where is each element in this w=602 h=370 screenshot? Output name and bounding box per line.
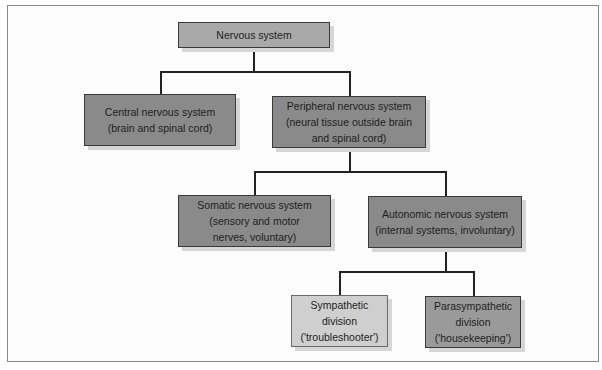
- node-label: Central nervous system (brain and spinal…: [105, 104, 215, 136]
- connector-root-stem: [253, 47, 255, 71]
- node-label: Somatic nervous system (sensory and moto…: [197, 197, 311, 245]
- node-label: Sympathetic division ('troubleshooter'): [300, 297, 378, 345]
- connector-to-somatic: [254, 171, 256, 195]
- node-nervous-system: Nervous system: [178, 22, 330, 48]
- node-label: Autonomic nervous system (internal syste…: [375, 206, 514, 238]
- node-label: Peripheral nervous system (neural tissue…: [286, 98, 412, 146]
- node-somatic-nervous-system: Somatic nervous system (sensory and moto…: [178, 195, 331, 247]
- connector-autonomic-stem: [445, 247, 447, 271]
- connector-to-sympathetic: [339, 271, 341, 295]
- node-label: Parasympathetic division ('housekeeping'…: [434, 298, 512, 346]
- connector-level3-bar: [339, 271, 474, 273]
- node-parasympathetic-division: Parasympathetic division ('housekeeping'…: [425, 296, 521, 348]
- connector-to-parasympathetic: [473, 271, 475, 296]
- node-central-nervous-system: Central nervous system (brain and spinal…: [84, 94, 236, 146]
- connector-to-peripheral: [349, 71, 351, 96]
- node-autonomic-nervous-system: Autonomic nervous system (internal syste…: [368, 196, 522, 248]
- node-sympathetic-division: Sympathetic division ('troubleshooter'): [291, 295, 388, 347]
- connector-level2-bar: [254, 171, 446, 173]
- node-peripheral-nervous-system: Peripheral nervous system (neural tissue…: [272, 96, 426, 148]
- connector-peripheral-stem: [349, 147, 351, 171]
- connector-to-central: [160, 71, 162, 94]
- connector-level1-bar: [160, 71, 350, 73]
- connector-to-autonomic: [445, 171, 447, 196]
- node-label: Nervous system: [216, 27, 291, 43]
